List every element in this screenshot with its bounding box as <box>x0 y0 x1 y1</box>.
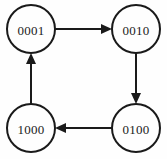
node-label: 0010 <box>123 23 150 38</box>
edge-0001-to-0010 <box>55 24 112 34</box>
edge-0100-to-1000 <box>55 123 112 133</box>
state-node-0001[interactable]: 0001 <box>7 5 55 53</box>
node-label: 0100 <box>123 122 150 137</box>
node-label: 1000 <box>18 122 45 137</box>
state-node-0100[interactable]: 0100 <box>112 104 160 152</box>
arrowhead-left-icon <box>55 123 66 133</box>
node-label: 0001 <box>18 23 45 38</box>
state-transition-diagram: 0001 0010 0100 1000 <box>0 0 167 159</box>
arrowhead-right-icon <box>101 24 112 34</box>
state-node-1000[interactable]: 1000 <box>7 104 55 152</box>
arrowhead-down-icon <box>131 93 141 104</box>
edge-0010-to-0100 <box>131 53 141 104</box>
arrowhead-up-icon <box>26 53 36 64</box>
state-node-0010[interactable]: 0010 <box>112 5 160 53</box>
edge-1000-to-0001 <box>26 53 36 104</box>
state-graph-canvas: 0001 0010 0100 1000 <box>0 0 167 159</box>
